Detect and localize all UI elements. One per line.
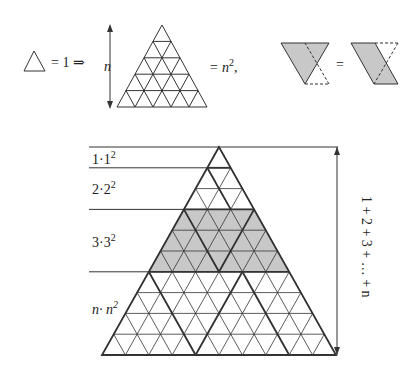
n-grid-triangle-dline [189, 91, 198, 107]
level-2-exponent: 2 [111, 179, 116, 190]
big-grid-dline [114, 334, 126, 355]
level-n-label: n· n2 [92, 300, 118, 317]
level-3-exponent: 2 [111, 232, 116, 243]
n-grid-triangle-dline [126, 91, 135, 107]
level-2-label: 2·22 [92, 180, 116, 197]
n-squared-comma: , [234, 60, 238, 75]
n-squared-text: = n [209, 60, 229, 75]
level-1-exponent: 2 [111, 149, 116, 160]
shape-equals-sign: = [336, 58, 344, 72]
level-n-exponent: 2 [113, 299, 118, 310]
level-1-text: 1·1 [92, 152, 111, 167]
arrow-up-icon [107, 24, 113, 32]
arrow-down-icon [107, 101, 113, 109]
big-grid-dline [313, 334, 325, 355]
big-grid-dline [137, 293, 172, 355]
level-3-label: 3·32 [92, 233, 116, 250]
unit-triangle-icon [24, 51, 45, 71]
level-3-text: 3·3 [92, 235, 111, 250]
bracket-arrow-up-icon [334, 147, 340, 155]
side-sum-label: 1 + 2 + 3 + … + n [358, 196, 374, 298]
shaded-parallelogram [351, 43, 398, 84]
n-grid-triangle-dline [117, 25, 162, 107]
unit-equation: = 1 ⇒ [51, 56, 85, 70]
n-squared-equation: = n2, [209, 58, 237, 75]
level-2-text: 2·2 [92, 182, 111, 197]
n-grid-triangle-dline [162, 25, 207, 107]
level-3-shaded-band [149, 209, 289, 271]
n-height-label: n [104, 60, 111, 74]
shaded-triangle-left [281, 43, 329, 84]
level-1-label: 1·12 [92, 150, 116, 167]
level-n-text: n· n [92, 302, 113, 317]
